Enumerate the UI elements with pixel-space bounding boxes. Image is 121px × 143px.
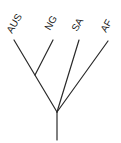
label-sa: SA [69, 16, 85, 33]
label-ng: NG [42, 13, 59, 32]
branch-aus [14, 40, 57, 112]
branches [14, 40, 108, 140]
label-af: AF [98, 17, 114, 34]
phylogenetic-tree: AUS NG SA AF [0, 0, 121, 143]
branch-ng [35, 40, 53, 75]
label-aus: AUS [4, 11, 24, 35]
branch-sa [57, 40, 79, 112]
branch-af [57, 41, 108, 112]
taxon-labels: AUS NG SA AF [4, 11, 114, 35]
